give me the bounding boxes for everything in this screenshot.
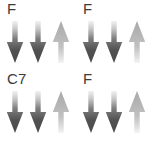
down-arrow-icon (27, 20, 49, 64)
down-arrow-icon (80, 20, 102, 64)
down-arrow-icon (4, 20, 26, 64)
panel-top-left-arrow-row (4, 20, 76, 66)
panel-top-right-label: F (83, 1, 92, 17)
up-arrow-icon (50, 90, 72, 134)
down-arrow-icon (80, 90, 102, 134)
panel-bottom-right-arrow-row (80, 90, 152, 136)
panel-top-left: F (0, 0, 76, 72)
panel-bottom-right-label: F (83, 71, 92, 87)
up-arrow-icon (126, 20, 148, 64)
panel-bottom-left: C7 (0, 70, 76, 142)
down-arrow-icon (27, 90, 49, 134)
down-arrow-icon (4, 90, 26, 134)
panel-top-left-label: F (7, 1, 16, 17)
up-arrow-icon (50, 20, 72, 64)
panel-top-right-arrow-row (80, 20, 152, 66)
up-arrow-icon (126, 90, 148, 134)
down-arrow-icon (103, 90, 125, 134)
down-arrow-icon (103, 20, 125, 64)
panel-top-right: F (76, 0, 152, 72)
panel-bottom-right: F (76, 70, 152, 142)
spin-arrow-figure: F (0, 0, 153, 144)
panel-bottom-left-arrow-row (4, 90, 76, 136)
panel-bottom-left-label: C7 (7, 71, 27, 87)
